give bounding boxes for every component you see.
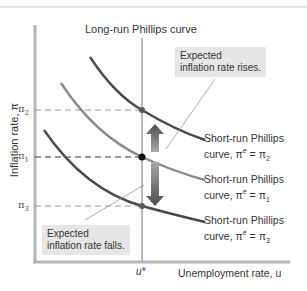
arrow-down-icon: [146, 162, 164, 206]
callout-falls-line1: Expected: [47, 228, 125, 240]
srpc-pi3-label: Short-run Phillips curve, πe = π3: [204, 214, 284, 247]
callout-falls-line2: inflation rate falls.: [47, 240, 125, 252]
srpc-pi1-label-text: curve, π: [204, 188, 243, 200]
srpc-pi2-label: Short-run Phillips curve, πe = π2: [204, 132, 284, 165]
tick-pi2: π2: [18, 103, 29, 117]
srpc-pi3-label-line1: Short-run Phillips: [204, 214, 284, 227]
srpc-pi1-label-line1: Short-run Phillips: [204, 173, 284, 186]
point-pi2: [139, 107, 145, 113]
srpc-pi1-eq: = π: [247, 188, 266, 200]
x-axis-label: Unemployment rate, u: [178, 267, 281, 280]
srpc-pi1-sub: 1: [266, 195, 270, 202]
callout-rises-line1: Expected: [180, 50, 261, 62]
srpc-pi3-sub: 3: [266, 236, 270, 243]
arrow-up-icon: [146, 124, 164, 152]
point-pi1: [139, 154, 146, 161]
tick-pi1: π1: [18, 150, 29, 164]
srpc-pi3-label-text: curve, π: [204, 229, 243, 241]
callout-rises-line2: inflation rate rises.: [180, 62, 261, 74]
tick-pi3: π3: [18, 199, 29, 213]
srpc-pi3-eq: = π: [247, 229, 266, 241]
tick-pi1-symbol: π: [18, 150, 25, 161]
srpc-pi1-label: Short-run Phillips curve, πe = π1: [204, 173, 284, 206]
lrpc-label: Long-run Phillips curve: [85, 23, 197, 36]
tick-pi3-sub: 3: [25, 205, 29, 213]
callout-falls: Expected inflation rate falls.: [42, 225, 130, 255]
tick-pi1-sub: 1: [25, 156, 29, 164]
callout-rises: Expected inflation rate rises.: [175, 47, 266, 77]
point-pi3: [139, 203, 145, 209]
tick-pi2-sub: 2: [25, 109, 29, 117]
falls-leader: [85, 185, 144, 220]
srpc-pi2-label-text: curve, π: [204, 147, 243, 159]
tick-ustar: u*: [136, 266, 145, 279]
srpc-pi2-label-line1: Short-run Phillips: [204, 132, 284, 145]
srpc-pi2-eq: = π: [247, 147, 266, 159]
tick-pi2-symbol: π: [18, 103, 25, 114]
tick-pi3-symbol: π: [18, 199, 25, 210]
srpc-pi2-sub: 2: [266, 154, 270, 161]
srpc-pi3-curve: [44, 130, 205, 222]
